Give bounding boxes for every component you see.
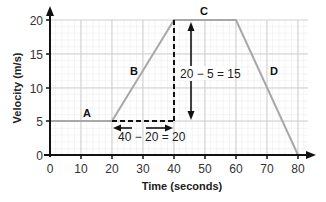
svg-text:20: 20 [105,162,119,176]
horizontal-span-label: 40 − 20 = 20 [118,130,186,144]
vertical-span-label: 20 − 5 = 15 [180,67,241,81]
svg-text:5: 5 [36,115,43,129]
svg-text:0: 0 [47,162,54,176]
segment-label-a: A [83,107,91,119]
y-axis-title: Velocity (m/s) [11,52,23,123]
svg-text:10: 10 [74,162,88,176]
segment-label-d: D [270,65,278,77]
svg-text:70: 70 [260,162,274,176]
y-tick-labels: 20 15 10 5 0 [30,14,44,163]
svg-text:10: 10 [30,82,44,96]
svg-text:20: 20 [30,14,44,28]
svg-text:40: 40 [167,162,181,176]
svg-text:30: 30 [136,162,150,176]
segment-label-b: B [130,65,138,77]
svg-text:0: 0 [36,149,43,163]
x-axis-arrow-icon [306,151,316,159]
svg-text:80: 80 [291,162,305,176]
svg-text:15: 15 [30,48,44,62]
velocity-time-chart: 40 − 20 = 20 20 − 5 = 15 A B C D 20 15 1… [0,0,326,202]
x-tick-labels: 0 10 20 30 40 50 60 70 80 [47,162,305,176]
y-axis-arrow-icon [46,6,54,16]
x-axis-title: Time (seconds) [142,180,223,192]
svg-text:60: 60 [229,162,243,176]
segment-label-c: C [200,5,208,17]
svg-text:50: 50 [198,162,212,176]
